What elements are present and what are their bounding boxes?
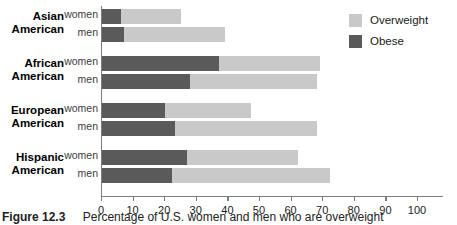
bar-asian-american-men bbox=[102, 27, 225, 42]
bar-segment-obese bbox=[102, 74, 190, 89]
bar-african-american-men bbox=[102, 74, 317, 89]
bar-segment-obese bbox=[102, 56, 219, 71]
bar-segment-overweight bbox=[121, 9, 181, 24]
bar-segment-obese bbox=[102, 121, 175, 136]
bar-segment-overweight bbox=[165, 103, 250, 118]
x-axis-tick bbox=[291, 196, 292, 201]
bar-asian-american-women bbox=[102, 9, 181, 24]
bar-segment-overweight bbox=[190, 74, 316, 89]
legend-label-obese: Obese bbox=[370, 35, 404, 47]
x-axis-tick bbox=[322, 196, 323, 201]
x-axis-tick bbox=[101, 196, 102, 201]
figure-caption-text: Percentage of U.S. women and men who are… bbox=[83, 210, 384, 224]
bar-european-american-women bbox=[102, 103, 251, 118]
bar-hispanic-american-women bbox=[102, 150, 298, 165]
row-label-european-men: men bbox=[46, 121, 98, 132]
bar-african-american-women bbox=[102, 56, 320, 71]
row-label-african-women: women bbox=[46, 56, 98, 67]
bar-segment-overweight bbox=[187, 150, 298, 165]
x-axis-tick bbox=[227, 196, 228, 201]
row-label-hispanic-men: men bbox=[46, 168, 98, 179]
bar-segment-obese bbox=[102, 27, 124, 42]
x-axis-tick bbox=[164, 196, 165, 201]
x-axis-tick bbox=[259, 196, 260, 201]
bar-segment-obese bbox=[102, 103, 165, 118]
x-axis-tick bbox=[354, 196, 355, 201]
row-label-asian-women: women bbox=[46, 9, 98, 20]
chart-figure: Asian American African American European… bbox=[0, 0, 457, 225]
legend: Overweight Obese bbox=[349, 11, 428, 53]
legend-swatch-obese-icon bbox=[349, 35, 362, 48]
row-label-hispanic-women: women bbox=[46, 150, 98, 161]
figure-caption: Figure 12.3 Percentage of U.S. women and… bbox=[2, 210, 457, 224]
bar-segment-obese bbox=[102, 9, 121, 24]
x-axis-tick bbox=[417, 196, 418, 201]
x-axis-tick bbox=[196, 196, 197, 201]
bar-segment-overweight bbox=[219, 56, 320, 71]
x-axis-line bbox=[101, 196, 443, 197]
row-label-african-men: men bbox=[46, 74, 98, 85]
bar-european-american-men bbox=[102, 121, 317, 136]
x-axis-tick bbox=[385, 196, 386, 201]
figure-caption-number: Figure 12.3 bbox=[2, 210, 65, 224]
bar-segment-overweight bbox=[172, 168, 330, 183]
legend-item-obese: Obese bbox=[349, 32, 428, 50]
bar-segment-overweight bbox=[124, 27, 225, 42]
bar-segment-obese bbox=[102, 168, 172, 183]
x-axis-tick bbox=[133, 196, 134, 201]
bar-segment-overweight bbox=[175, 121, 317, 136]
row-label-asian-men: men bbox=[46, 27, 98, 38]
legend-label-overweight: Overweight bbox=[370, 14, 428, 26]
legend-item-overweight: Overweight bbox=[349, 11, 428, 29]
bar-segment-obese bbox=[102, 150, 187, 165]
row-label-european-women: women bbox=[46, 103, 98, 114]
legend-swatch-overweight-icon bbox=[349, 14, 362, 27]
bar-hispanic-american-men bbox=[102, 168, 330, 183]
